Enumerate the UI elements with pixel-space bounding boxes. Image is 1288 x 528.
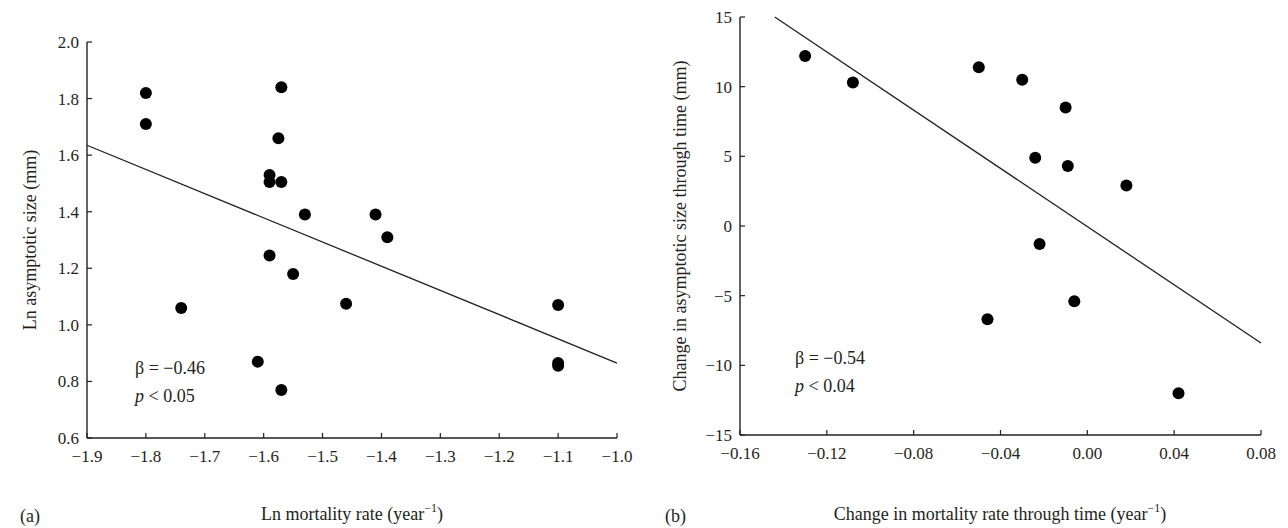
x-tick-label: 0.00 <box>1072 444 1102 463</box>
x-tick-label: −0.04 <box>981 444 1021 463</box>
x-axis-title: Ln mortality rate (year−1) <box>261 501 443 525</box>
panel-label: (a) <box>20 506 40 527</box>
y-tick-label: 1.6 <box>58 146 79 165</box>
x-tick-label: −0.16 <box>720 444 759 463</box>
x-axis-title-main: Change in mortality rate through time (y… <box>834 504 1148 525</box>
y-axis-title: Change in asymptotic size through time (… <box>670 61 691 392</box>
panel-label: (b) <box>665 506 686 527</box>
data-point <box>1062 160 1074 172</box>
data-point <box>175 302 187 314</box>
data-point <box>1029 152 1041 164</box>
data-point <box>370 209 382 221</box>
p-value-text: < 0.05 <box>144 386 195 406</box>
x-tick-label: −1.9 <box>72 447 103 466</box>
p-symbol: p <box>133 386 144 406</box>
data-point <box>1120 180 1132 192</box>
x-tick-label: −1.8 <box>130 447 161 466</box>
y-tick-label: 0 <box>724 217 733 236</box>
data-point <box>1068 295 1080 307</box>
x-tick-label: −1.6 <box>248 447 279 466</box>
data-point <box>264 250 276 262</box>
x-tick-label: 0.08 <box>1246 444 1276 463</box>
data-point <box>973 61 985 73</box>
x-axis-title: Change in mortality rate through time (y… <box>834 501 1167 525</box>
beta-annotation: β = −0.46 <box>135 358 205 378</box>
y-tick-label: −15 <box>705 426 732 445</box>
x-tick-label: −0.12 <box>807 444 846 463</box>
y-tick-label: 0.6 <box>58 429 79 448</box>
y-tick-label: 15 <box>715 8 732 27</box>
data-point <box>1034 238 1046 250</box>
x-tick-label: −1.5 <box>307 447 338 466</box>
y-tick-label: 1.4 <box>58 203 80 222</box>
data-point <box>981 313 993 325</box>
y-tick-label: 1.2 <box>58 259 79 278</box>
data-point <box>140 118 152 130</box>
data-point <box>264 176 276 188</box>
data-point <box>1060 102 1072 114</box>
x-axis-title-end: ) <box>437 504 443 525</box>
x-axis-title-superscript: −1 <box>1148 501 1161 515</box>
p-value-annotation: p < 0.05 <box>133 386 195 406</box>
data-point <box>275 384 287 396</box>
beta-annotation: β = −0.54 <box>795 348 865 368</box>
data-point <box>1016 74 1028 86</box>
data-point <box>275 81 287 93</box>
data-point <box>287 268 299 280</box>
x-tick-label: −1.0 <box>602 447 633 466</box>
y-tick-label: 5 <box>724 147 733 166</box>
x-tick-label: −1.3 <box>425 447 456 466</box>
data-point <box>299 209 311 221</box>
data-point <box>552 299 564 311</box>
x-tick-label: −1.1 <box>543 447 574 466</box>
y-tick-label: 0.8 <box>58 372 79 391</box>
y-tick-label: 10 <box>715 78 732 97</box>
data-point <box>381 231 393 243</box>
p-symbol: p <box>793 376 804 396</box>
y-tick-label: −5 <box>714 287 732 306</box>
regression-line <box>87 145 617 363</box>
x-axis-title-end: ) <box>1160 504 1166 525</box>
data-point <box>340 298 352 310</box>
y-tick-label: 1.8 <box>58 90 79 109</box>
data-point <box>847 76 859 88</box>
chart-b: −15−10−5051015−0.16−0.12−0.08−0.040.000.… <box>665 8 1276 527</box>
y-axis-title: Ln asymptotic size (mm) <box>20 150 41 330</box>
figure-canvas: 0.60.81.01.21.41.61.82.0−1.9−1.8−1.7−1.6… <box>0 0 1288 528</box>
data-point <box>275 176 287 188</box>
x-axis-title-superscript: −1 <box>424 501 437 515</box>
regression-line <box>775 17 1261 343</box>
x-tick-label: −0.08 <box>894 444 933 463</box>
data-point <box>140 87 152 99</box>
y-tick-label: −10 <box>705 356 732 375</box>
data-point <box>552 360 564 372</box>
x-tick-label: −1.2 <box>484 447 515 466</box>
data-point <box>799 50 811 62</box>
x-tick-label: −1.4 <box>366 447 397 466</box>
p-value-annotation: p < 0.04 <box>793 376 855 396</box>
data-point <box>272 132 284 144</box>
x-tick-label: 0.04 <box>1159 444 1189 463</box>
data-point <box>1173 387 1185 399</box>
chart-a: 0.60.81.01.21.41.61.82.0−1.9−1.8−1.7−1.6… <box>20 33 632 527</box>
y-tick-label: 1.0 <box>58 316 79 335</box>
x-tick-label: −1.7 <box>189 447 220 466</box>
y-tick-label: 2.0 <box>58 33 79 52</box>
data-point <box>252 356 264 368</box>
p-value-text: < 0.04 <box>804 376 855 396</box>
x-axis-title-main: Ln mortality rate (year <box>261 504 424 525</box>
